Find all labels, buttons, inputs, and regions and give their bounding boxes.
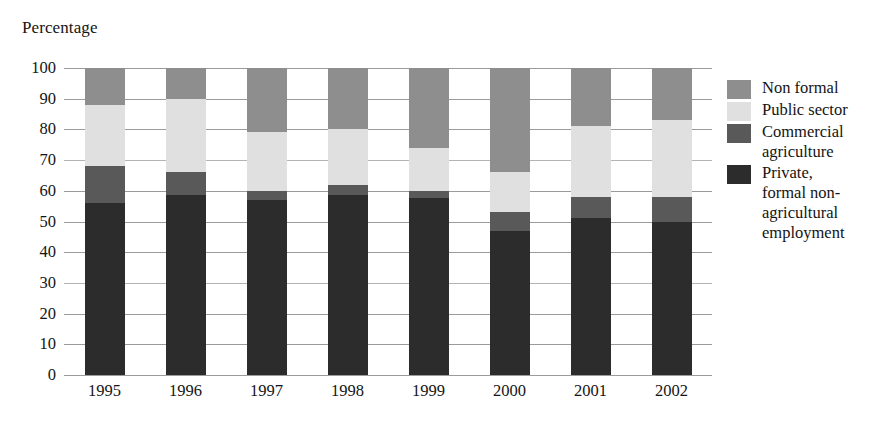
legend-item: Public sector bbox=[727, 100, 883, 121]
x-tick-label: 1995 bbox=[65, 381, 145, 401]
bar-segment bbox=[571, 218, 611, 375]
y-tick-label: 90 bbox=[10, 91, 56, 108]
bar-segment bbox=[409, 191, 449, 199]
bar-segment bbox=[490, 212, 530, 230]
y-tick-label: 20 bbox=[10, 306, 56, 323]
bar-segment bbox=[166, 195, 206, 375]
bar-segment bbox=[652, 197, 692, 222]
bar-column-1999 bbox=[409, 68, 449, 375]
bar-segment bbox=[652, 222, 692, 376]
stacked-bar-chart: Percentage 1009080706050403020100 199519… bbox=[0, 0, 883, 431]
x-tick-label: 1999 bbox=[389, 381, 469, 401]
bar-segment bbox=[328, 195, 368, 375]
bar-segment bbox=[409, 68, 449, 148]
bar-segment bbox=[328, 185, 368, 196]
bar-column-1995 bbox=[85, 68, 125, 375]
x-tick-label: 2002 bbox=[632, 381, 712, 401]
bar-column-2001 bbox=[571, 68, 611, 375]
legend-item: Commercial agriculture bbox=[727, 122, 883, 162]
bar-segment bbox=[490, 231, 530, 375]
bar-segment bbox=[85, 166, 125, 203]
gridline bbox=[64, 375, 712, 376]
x-tick-label: 2000 bbox=[470, 381, 550, 401]
bar-segment bbox=[571, 197, 611, 218]
legend-swatch-icon bbox=[727, 102, 751, 121]
bar-segment bbox=[166, 172, 206, 195]
plot-area bbox=[64, 68, 712, 375]
legend-item: Private, formal non- agricultural employ… bbox=[727, 163, 883, 243]
chart-legend: Non formalPublic sectorCommercial agricu… bbox=[727, 78, 883, 244]
bar-segment bbox=[247, 191, 287, 200]
bar-segment bbox=[328, 129, 368, 184]
legend-item: Non formal bbox=[727, 78, 883, 99]
y-tick-label: 60 bbox=[10, 183, 56, 200]
y-tick-label: 50 bbox=[10, 214, 56, 231]
bar-segment bbox=[85, 203, 125, 375]
bar-column-1998 bbox=[328, 68, 368, 375]
bar-column-1996 bbox=[166, 68, 206, 375]
bar-segment bbox=[247, 200, 287, 375]
y-tick-label: 100 bbox=[10, 60, 56, 77]
bar-segment bbox=[652, 120, 692, 197]
y-tick-label: 70 bbox=[10, 152, 56, 169]
legend-label: Private, formal non- agricultural employ… bbox=[762, 163, 844, 243]
y-axis-title: Percentage bbox=[22, 18, 98, 38]
bar-segment bbox=[247, 68, 287, 132]
x-axis-tick-labels: 19951996199719981999200020012002 bbox=[64, 381, 712, 407]
legend-swatch-icon bbox=[727, 124, 751, 143]
y-axis-tick-labels: 1009080706050403020100 bbox=[8, 68, 56, 375]
y-tick-label: 40 bbox=[10, 244, 56, 261]
legend-label: Commercial agriculture bbox=[762, 122, 844, 162]
bar-segment bbox=[571, 68, 611, 126]
bar-segment bbox=[328, 68, 368, 129]
bar-column-2000 bbox=[490, 68, 530, 375]
bar-segment bbox=[166, 99, 206, 173]
legend-swatch-icon bbox=[727, 165, 751, 184]
y-tick-label: 80 bbox=[10, 121, 56, 138]
bar-segment bbox=[409, 148, 449, 191]
bar-segment bbox=[166, 68, 206, 99]
bar-column-2002 bbox=[652, 68, 692, 375]
bar-segment bbox=[247, 132, 287, 190]
bars-layer bbox=[64, 68, 712, 375]
x-tick-label: 1998 bbox=[308, 381, 388, 401]
y-tick-label: 30 bbox=[10, 275, 56, 292]
x-tick-label: 1997 bbox=[227, 381, 307, 401]
bar-segment bbox=[409, 198, 449, 375]
bar-segment bbox=[490, 172, 530, 212]
bar-segment bbox=[571, 126, 611, 197]
y-tick-label: 10 bbox=[10, 336, 56, 353]
legend-swatch-icon bbox=[727, 80, 751, 99]
bar-segment bbox=[490, 68, 530, 172]
bar-column-1997 bbox=[247, 68, 287, 375]
legend-label: Non formal bbox=[762, 78, 839, 98]
x-tick-label: 1996 bbox=[146, 381, 226, 401]
bar-segment bbox=[85, 68, 125, 105]
bar-segment bbox=[85, 105, 125, 166]
x-tick-label: 2001 bbox=[551, 381, 631, 401]
bar-segment bbox=[652, 68, 692, 120]
legend-label: Public sector bbox=[762, 100, 848, 120]
y-tick-label: 0 bbox=[10, 367, 56, 384]
